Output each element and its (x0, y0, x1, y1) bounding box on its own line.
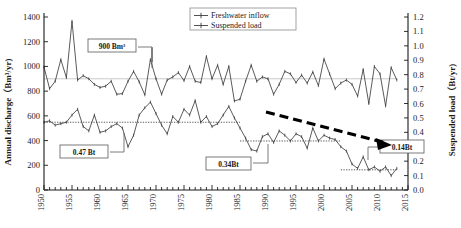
y-tick-label-800: 800 (27, 86, 40, 96)
x-tick-label-1970: 1970 (148, 194, 158, 211)
y-tick-label-200: 200 (27, 160, 40, 170)
y2-tick-label-0.1: 0.1 (413, 171, 424, 181)
y2-tick-label-0.0: 0.0 (413, 185, 424, 195)
annotation-900bm3-label: 900 Bm³ (99, 42, 126, 51)
y-tick-label-0: 0 (36, 185, 40, 195)
y2-tick-label-1.0: 1.0 (413, 41, 424, 51)
legend-label-freshwater-inflow: Freshwater inflow (211, 11, 270, 20)
y2-tick-label-0.8: 0.8 (413, 70, 424, 80)
annotation-047bt-label: 0.47 Bt (73, 148, 96, 157)
y2-tick-label-1.1: 1.1 (413, 26, 424, 36)
x-tick-label-1975: 1975 (176, 194, 186, 211)
dual-axis-line-chart: 02004006008001000120014000.00.10.20.30.4… (0, 0, 461, 228)
y2-tick-label-0.7: 0.7 (413, 84, 424, 94)
chart-figure: 02004006008001000120014000.00.10.20.30.4… (0, 0, 461, 228)
x-tick-label-1965: 1965 (120, 194, 130, 211)
x-tick-label-2005: 2005 (344, 194, 354, 211)
legend-label-suspended-load: Suspended load (211, 21, 261, 30)
annotation-014bt-label: 0.14Bt (392, 143, 413, 152)
y2-tick-label-0.2: 0.2 (413, 156, 424, 166)
y-tick-label-1000: 1000 (23, 61, 40, 71)
chart-background (0, 0, 461, 228)
y2-tick-label-0.4: 0.4 (413, 127, 424, 137)
y-tick-label-600: 600 (27, 111, 40, 121)
chart-legend: Freshwater inflow Suspended load (190, 8, 296, 30)
x-tick-label-1990: 1990 (260, 194, 270, 211)
x-tick-label-1955: 1955 (64, 194, 74, 211)
annotation-034bt-label: 0.34Bt (218, 160, 239, 169)
y2-tick-label-0.6: 0.6 (413, 99, 424, 109)
y-tick-label-1400: 1400 (23, 12, 40, 22)
x-tick-label-2010: 2010 (372, 194, 382, 211)
y-tick-label-1200: 1200 (23, 37, 40, 47)
y2-tick-label-0.9: 0.9 (413, 55, 424, 65)
x-tick-label-1960: 1960 (92, 194, 102, 211)
x-tick-label-2000: 2000 (316, 194, 326, 211)
y2-tick-label-0.5: 0.5 (413, 113, 424, 123)
y2-tick-label-1.2: 1.2 (413, 12, 424, 22)
x-tick-label-1985: 1985 (232, 194, 242, 211)
x-tick-label-1950: 1950 (36, 194, 46, 211)
y-axis-title: Annual discharge（Bm³/yr) (3, 59, 13, 166)
x-tick-label-1995: 1995 (288, 194, 298, 211)
y2-axis-title: Suspended load（Bt/yr) (447, 64, 457, 156)
x-tick-label-1980: 1980 (204, 194, 214, 211)
x-tick-label-2015: 2015 (400, 194, 410, 211)
y-tick-label-400: 400 (27, 136, 40, 146)
